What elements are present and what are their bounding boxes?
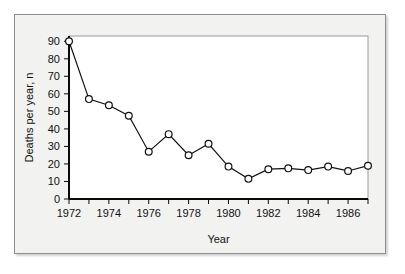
data-point-1974[interactable] xyxy=(105,102,112,109)
data-point-1986[interactable] xyxy=(345,168,352,175)
y-tick-label-70: 70 xyxy=(48,70,60,82)
x-tick-label-1976: 1976 xyxy=(136,207,160,219)
data-point-1977[interactable] xyxy=(165,131,172,138)
x-tick-label-1980: 1980 xyxy=(216,207,240,219)
plot-area: 0102030405060708090197219741976197819801… xyxy=(23,35,371,245)
x-tick-label-1978: 1978 xyxy=(176,207,200,219)
y-tick-label-40: 40 xyxy=(48,123,60,135)
data-point-1982[interactable] xyxy=(265,166,272,173)
x-tick-label-1972: 1972 xyxy=(57,207,81,219)
data-point-1981[interactable] xyxy=(245,175,252,182)
data-point-1983[interactable] xyxy=(285,165,292,172)
x-tick-label-1974: 1974 xyxy=(97,207,121,219)
data-point-1979[interactable] xyxy=(205,140,212,147)
y-tick-label-80: 80 xyxy=(48,53,60,65)
y-tick-label-20: 20 xyxy=(48,158,60,170)
y-tick-label-60: 60 xyxy=(48,88,60,100)
data-point-1975[interactable] xyxy=(125,112,132,119)
y-tick-label-0: 0 xyxy=(54,193,60,205)
x-axis-title: Year xyxy=(207,233,230,245)
data-point-1978[interactable] xyxy=(185,152,192,159)
y-tick-label-50: 50 xyxy=(48,105,60,117)
figure-frame: 0102030405060708090197219741976197819801… xyxy=(14,14,386,254)
data-point-1987[interactable] xyxy=(365,162,372,169)
plot-background xyxy=(69,36,368,199)
data-point-1972[interactable] xyxy=(66,38,73,45)
data-point-1984[interactable] xyxy=(305,167,312,174)
y-tick-label-90: 90 xyxy=(48,35,60,47)
x-tick-label-1984: 1984 xyxy=(296,207,320,219)
x-tick-label-1986: 1986 xyxy=(336,207,360,219)
data-point-1985[interactable] xyxy=(325,163,332,170)
data-point-1973[interactable] xyxy=(86,96,93,103)
figure-root: 0102030405060708090197219741976197819801… xyxy=(0,0,405,274)
y-tick-label-10: 10 xyxy=(48,175,60,187)
y-tick-label-30: 30 xyxy=(48,140,60,152)
y-axis-title: Deaths per year, n xyxy=(23,73,35,163)
line-chart: 0102030405060708090197219741976197819801… xyxy=(15,15,385,253)
x-tick-label-1982: 1982 xyxy=(256,207,280,219)
data-point-1980[interactable] xyxy=(225,163,232,170)
data-point-1976[interactable] xyxy=(145,148,152,155)
